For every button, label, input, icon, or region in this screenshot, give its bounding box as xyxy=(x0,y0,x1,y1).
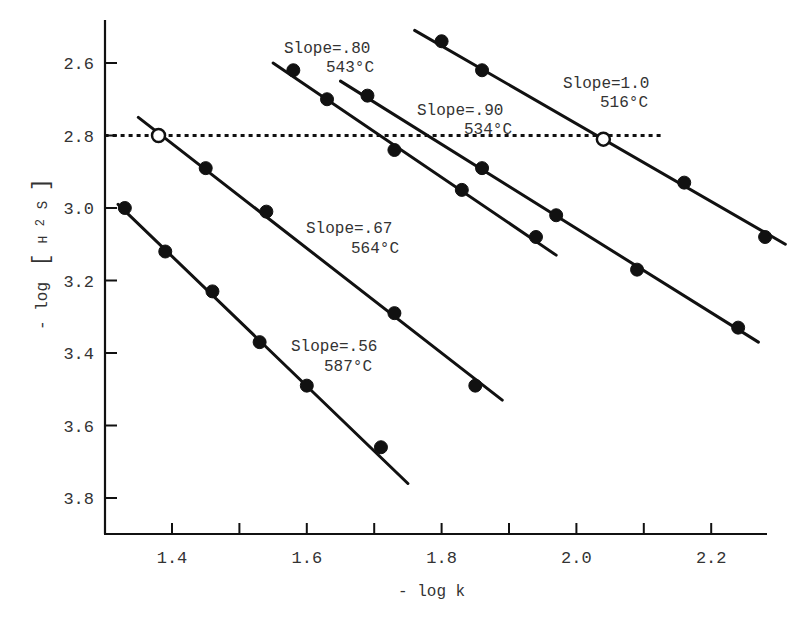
data-point xyxy=(529,231,542,244)
annotation-slope-text: Slope=.56 xyxy=(291,338,377,356)
x-tick-label: 1.8 xyxy=(426,549,457,568)
data-point xyxy=(476,162,489,175)
y-tick-label: 2.6 xyxy=(63,55,94,74)
data-point xyxy=(159,245,172,258)
x-tick-label: 1.6 xyxy=(291,549,322,568)
y-axis-title-suffix: S xyxy=(35,201,51,209)
y-tick-label: 2.8 xyxy=(63,128,94,147)
x-axis-tick-labels: 1.41.61.82.02.2 xyxy=(157,549,727,568)
axes xyxy=(104,20,767,534)
y-axis-title: - log [ H 2 S ] xyxy=(29,178,54,330)
y-axis-title-prefix: - log xyxy=(34,282,52,330)
annotation-temp-text: 516°C xyxy=(600,94,648,112)
x-tick-label: 2.0 xyxy=(561,549,592,568)
x-tick-label: 1.4 xyxy=(157,549,188,568)
y-axis-tick-labels: 2.62.83.03.23.43.63.8 xyxy=(63,55,94,509)
data-point-open xyxy=(597,133,610,146)
y-tick-label: 3.0 xyxy=(63,200,94,219)
annotation-temp-text: 587°C xyxy=(324,358,372,376)
data-point xyxy=(455,183,468,196)
y-axis-title-bracket-close: ] xyxy=(29,178,54,191)
y-axis-title-bracket-open: [ xyxy=(29,253,54,266)
annotation-slope-10: Slope=1.0 516°C xyxy=(563,75,649,112)
data-point xyxy=(206,285,219,298)
data-point xyxy=(435,35,448,48)
data-point xyxy=(469,379,482,392)
y-axis-ticks xyxy=(105,63,117,498)
y-axis-title-species: H xyxy=(36,236,51,244)
data-point xyxy=(388,144,401,157)
series-layer xyxy=(118,30,785,483)
data-point xyxy=(759,231,772,244)
series-slope67 xyxy=(138,117,502,400)
data-point xyxy=(388,307,401,320)
svg-text:- log [ H 2: - log [ H 2 S ] xyxy=(29,178,54,330)
annotation-slope-text: Slope=.90 xyxy=(417,102,503,120)
data-point xyxy=(199,162,212,175)
data-point xyxy=(253,336,266,349)
data-point xyxy=(732,321,745,334)
data-point xyxy=(321,93,334,106)
data-point xyxy=(118,202,131,215)
chart-canvas: 2.62.83.03.23.43.63.8 1.41.61.82.02.2 Sl… xyxy=(0,0,798,621)
x-tick-label: 2.2 xyxy=(696,549,727,568)
data-point xyxy=(300,379,313,392)
annotation-slope-67: Slope=.67 564°C xyxy=(306,220,399,258)
x-axis-title: - log k xyxy=(398,583,465,601)
data-point xyxy=(678,176,691,189)
y-tick-label: 3.4 xyxy=(63,345,94,364)
annotation-slope-text: Slope=.80 xyxy=(284,40,370,58)
annotation-slope-text: Slope=.67 xyxy=(306,220,392,238)
y-tick-label: 3.8 xyxy=(63,490,94,509)
fit-line xyxy=(138,117,502,400)
data-point xyxy=(260,205,273,218)
fit-line xyxy=(341,81,759,342)
data-point-open xyxy=(152,129,165,142)
data-point xyxy=(476,64,489,77)
series-slope90 xyxy=(341,81,759,342)
annotation-temp-text: 543°C xyxy=(326,59,374,77)
annotation-slope-text: Slope=1.0 xyxy=(563,75,649,93)
data-point xyxy=(631,263,644,276)
data-point xyxy=(287,64,300,77)
annotation-temp-text: 564°C xyxy=(351,240,399,258)
annotation-temp-text: 534°C xyxy=(464,121,512,139)
y-tick-label: 3.2 xyxy=(63,273,94,292)
y-axis-title-subscript: 2 xyxy=(34,219,48,226)
data-point xyxy=(361,89,374,102)
x-axis-ticks xyxy=(172,523,711,534)
y-tick-label: 3.6 xyxy=(63,418,94,437)
annotation-slope-90: Slope=.90 534°C xyxy=(417,102,512,139)
data-point xyxy=(374,441,387,454)
annotation-slope-56: Slope=.56 587°C xyxy=(291,338,377,376)
data-point xyxy=(550,209,563,222)
